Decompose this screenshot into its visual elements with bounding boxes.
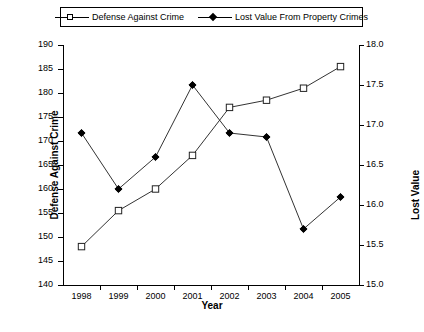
left-axis-tick-label: 155 xyxy=(38,208,53,217)
x-axis-title: Year xyxy=(0,300,424,311)
left-axis-tick xyxy=(58,189,63,190)
right-axis-title: Lost Value xyxy=(410,135,422,255)
left-axis-tick-label: 190 xyxy=(38,40,53,49)
open-square-marker-icon xyxy=(263,97,269,103)
series-line-1 xyxy=(82,67,341,247)
left-axis-tick-label: 150 xyxy=(38,232,53,241)
chart-figure: Defense Against Crime Lost Value From Pr… xyxy=(0,0,424,332)
left-axis-tick xyxy=(58,117,63,118)
left-axis-tick-label: 140 xyxy=(38,280,53,289)
x-axis-tick xyxy=(211,285,212,290)
right-axis-tick xyxy=(359,245,364,246)
right-axis-tick-label: 15.5 xyxy=(366,240,384,249)
left-axis-tick xyxy=(58,93,63,94)
chart-legend: Defense Against Crime Lost Value From Pr… xyxy=(60,7,363,27)
right-axis-tick-label: 16.0 xyxy=(366,200,384,209)
right-axis-tick-label: 17.5 xyxy=(366,80,384,89)
series-layer xyxy=(63,45,359,285)
right-axis-tick xyxy=(359,285,364,286)
x-axis-tick xyxy=(322,285,323,290)
open-square-marker-icon xyxy=(115,207,121,213)
left-axis-tick xyxy=(58,69,63,70)
filled-diamond-marker-icon xyxy=(78,129,85,136)
open-square-marker-icon xyxy=(300,85,306,91)
left-axis-tick xyxy=(58,261,63,262)
left-axis-tick-label: 175 xyxy=(38,112,53,121)
x-axis-tick xyxy=(100,285,101,290)
right-axis-tick xyxy=(359,205,364,206)
left-axis-tick-label: 160 xyxy=(38,184,53,193)
left-axis-tick-label: 185 xyxy=(38,64,53,73)
filled-diamond-marker-icon xyxy=(198,13,232,22)
x-axis-tick xyxy=(137,285,138,290)
right-axis-tick-label: 18.0 xyxy=(366,40,384,49)
left-axis-tick xyxy=(58,165,63,166)
right-axis-tick xyxy=(359,125,364,126)
x-axis-tick xyxy=(248,285,249,290)
x-axis-tick xyxy=(174,285,175,290)
left-axis-tick xyxy=(58,285,63,286)
right-axis-tick-label: 17.0 xyxy=(366,120,384,129)
left-axis-tick-label: 145 xyxy=(38,256,53,265)
right-axis-tick xyxy=(359,165,364,166)
plot-area: Defense Against Crime Lost Value 1401451… xyxy=(63,45,359,285)
left-axis-tick xyxy=(58,45,63,46)
right-axis-tick-label: 15.0 xyxy=(366,280,384,289)
legend-entry-defense-against-crime: Defense Against Crime xyxy=(55,13,184,22)
legend-entry-lost-value-from-property-crimes: Lost Value From Property Crimes xyxy=(198,13,368,22)
open-square-marker-icon xyxy=(78,243,84,249)
right-axis-tick xyxy=(359,85,364,86)
left-axis-tick-label: 170 xyxy=(38,136,53,145)
left-axis-tick-label: 180 xyxy=(38,88,53,97)
open-square-marker-icon xyxy=(226,104,232,110)
open-square-marker-icon xyxy=(337,63,343,69)
open-square-marker-icon xyxy=(152,186,158,192)
right-axis-tick-label: 16.5 xyxy=(366,160,384,169)
legend-label-defense-against-crime: Defense Against Crime xyxy=(92,13,184,22)
left-axis-tick xyxy=(58,237,63,238)
open-square-marker-icon xyxy=(189,152,195,158)
x-axis-tick xyxy=(285,285,286,290)
open-square-marker-icon xyxy=(55,13,89,22)
left-axis-tick xyxy=(58,213,63,214)
left-axis-tick xyxy=(58,141,63,142)
left-axis-tick-label: 165 xyxy=(38,160,53,169)
right-axis-tick xyxy=(359,45,364,46)
legend-label-lost-value-from-property-crimes: Lost Value From Property Crimes xyxy=(235,13,368,22)
filled-diamond-marker-icon xyxy=(263,133,270,140)
